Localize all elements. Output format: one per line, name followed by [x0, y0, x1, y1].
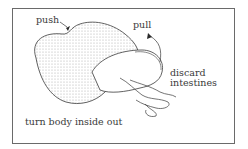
caption-label: turn body inside out — [25, 117, 122, 127]
push-label: push — [36, 15, 59, 25]
pull-label: pull — [133, 20, 151, 30]
intestines-label: intestines — [170, 78, 217, 88]
